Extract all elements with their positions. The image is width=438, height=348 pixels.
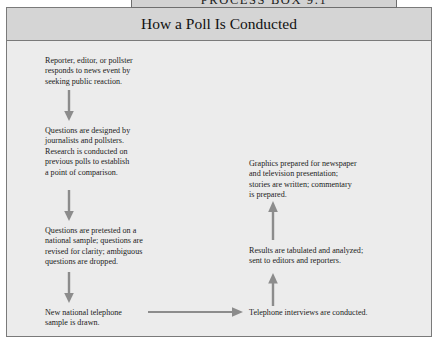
flow-node-sample-drawn: New national telephone sample is drawn. [45,308,165,329]
process-box-banner-label: Process Box 9.1 [201,0,327,7]
arrow-down-icon [63,90,75,122]
flow-node-questions-pretested: Questions are pretested on a national sa… [45,226,210,268]
figure-title: How a Poll Is Conducted [141,15,297,33]
flow-node-graphics-prepared: Graphics prepared for newspaper and tele… [249,159,424,201]
flow-node-telephone-interviews: Telephone interviews are conducted. [249,308,424,318]
process-box-banner: Process Box 9.1 [131,0,397,8]
arrow-up-icon [267,272,279,306]
flow-node-results-tabulated: Results are tabulated and analyzed; sent… [249,246,424,267]
process-box-figure: How a Poll Is Conducted Process Box 9.1 … [0,0,438,348]
arrow-down-icon [63,272,75,304]
arrow-right-icon [148,306,244,318]
figure-header-band: How a Poll Is Conducted [6,7,432,40]
flow-node-questions-designed: Questions are designed by journalists an… [45,126,205,178]
arrow-down-icon [63,190,75,222]
flow-node-reporter-responds: Reporter, editor, or pollster responds t… [45,56,205,87]
arrow-up-icon [267,200,279,240]
